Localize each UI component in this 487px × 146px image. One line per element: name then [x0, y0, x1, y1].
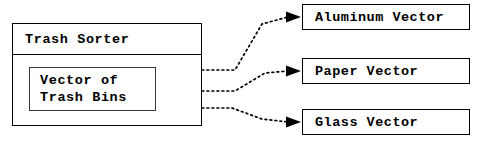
paper-vector-box: Paper Vector — [302, 58, 470, 84]
inner-box-label-line-2: Trash Bins — [40, 89, 155, 106]
container-title-label: Trash Sorter — [13, 32, 129, 47]
inner-box-label-line-1: Vector of — [40, 72, 155, 89]
glass-vector-label: Glass Vector — [303, 115, 418, 130]
diagram-canvas: Trash Sorter Vector of Trash Bins Alumin… — [0, 0, 487, 146]
glass-vector-box: Glass Vector — [302, 109, 470, 135]
arrowhead-glass — [286, 117, 301, 128]
aluminum-vector-box: Aluminum Vector — [302, 4, 470, 30]
arrowhead-aluminum — [286, 12, 301, 23]
aluminum-vector-label: Aluminum Vector — [303, 10, 444, 25]
arrowhead-paper — [286, 66, 301, 77]
container-title-compartment: Trash Sorter — [13, 24, 201, 55]
vector-of-trash-bins-box: Vector of Trash Bins — [29, 67, 156, 111]
trash-sorter-container: Trash Sorter Vector of Trash Bins — [12, 23, 202, 126]
paper-vector-label: Paper Vector — [303, 64, 418, 79]
